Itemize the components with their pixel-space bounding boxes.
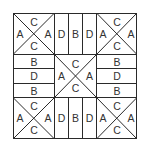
stripe-label: B — [72, 28, 79, 40]
label-bottom: C — [113, 124, 121, 136]
stripe-label: D — [86, 28, 94, 40]
label-right: A — [127, 28, 134, 40]
label-bottom: C — [72, 82, 80, 94]
stripe-label: B — [113, 56, 120, 68]
cell-top-right: C A A C — [97, 13, 138, 55]
label-left: A — [16, 112, 23, 124]
stripe-label: D — [113, 70, 121, 82]
stripe-label: B — [30, 85, 37, 97]
label-left: A — [16, 28, 23, 40]
label-top: C — [113, 16, 121, 28]
stripe-label: D — [30, 70, 38, 82]
cell-top-center: D B D — [58, 13, 94, 55]
cell-middle-left: B D B — [13, 56, 55, 97]
label-bottom: C — [30, 40, 38, 52]
stripe-label: B — [113, 85, 120, 97]
label-left: A — [99, 28, 106, 40]
cell-bottom-center: D B D — [58, 98, 94, 140]
label-right: A — [86, 70, 93, 82]
cell-bottom-right: C A A C — [97, 98, 138, 140]
stripe-label: D — [58, 112, 66, 124]
cell-center: C A A C — [55, 55, 97, 98]
stripe-label: D — [58, 28, 66, 40]
stripe-label: D — [86, 112, 94, 124]
label-right: A — [127, 112, 134, 124]
label-top: C — [113, 100, 121, 112]
label-top: C — [30, 100, 38, 112]
stripe-label: B — [72, 112, 79, 124]
quilt-block-diagram: C A A C D B D C A A C B D B C A A C — [13, 13, 137, 139]
cell-bottom-left: C A A C — [13, 98, 55, 140]
label-right: A — [44, 28, 51, 40]
label-top: C — [30, 16, 38, 28]
label-left: A — [99, 112, 106, 124]
label-bottom: C — [30, 124, 38, 136]
label-left: A — [58, 70, 65, 82]
label-top: C — [72, 58, 80, 70]
stripe-label: B — [30, 56, 37, 68]
cell-top-left: C A A C — [13, 13, 55, 55]
cell-middle-right: B D B — [97, 56, 138, 97]
label-bottom: C — [113, 40, 121, 52]
label-right: A — [44, 112, 51, 124]
